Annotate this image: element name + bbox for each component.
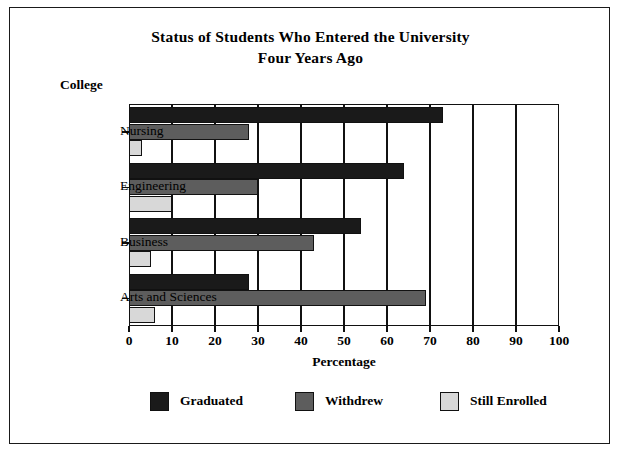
figure-frame: Status of Students Who Entered the Unive…: [9, 7, 610, 444]
y-axis-category-label: Business: [120, 234, 168, 250]
chart-page: Status of Students Who Entered the Unive…: [0, 0, 620, 453]
x-axis-tick: [472, 326, 474, 332]
gridline: [472, 104, 474, 326]
y-axis-category-label: Arts and Sciences: [120, 289, 217, 305]
chart-legend: GraduatedWithdrewStill Enrolled: [120, 390, 560, 416]
x-axis-tick-label: 30: [238, 333, 278, 349]
bar: [129, 107, 443, 123]
legend-item: Graduated: [150, 390, 243, 412]
chart-title: Status of Students Who Entered the Unive…: [10, 26, 611, 68]
x-axis-title: Percentage: [129, 354, 559, 370]
bar: [129, 251, 151, 267]
x-axis-tick: [128, 326, 130, 332]
y-axis-category-label: Engineering: [120, 178, 186, 194]
x-axis-tick: [386, 326, 388, 332]
plot-area: 0102030405060708090100 NursingEngineerin…: [120, 97, 560, 326]
x-axis-tick-label: 80: [453, 333, 493, 349]
x-axis-tick: [429, 326, 431, 332]
y-axis-title: College: [60, 77, 103, 93]
x-axis-tick: [515, 326, 517, 332]
x-axis-tick-label: 60: [367, 333, 407, 349]
bar: [129, 274, 249, 290]
chart-title-line-2: Four Years Ago: [10, 47, 611, 68]
x-axis-tick: [171, 326, 173, 332]
x-axis-tick-label: 10: [152, 333, 192, 349]
x-axis-tick-label: 100: [539, 333, 579, 349]
x-axis-tick: [214, 326, 216, 332]
x-axis-tick-label: 50: [324, 333, 364, 349]
bar: [129, 163, 404, 179]
gridline: [429, 104, 431, 326]
x-axis-tick: [343, 326, 345, 332]
bar: [129, 307, 155, 323]
x-axis-tick: [300, 326, 302, 332]
x-axis-tick-label: 40: [281, 333, 321, 349]
bar: [129, 196, 172, 212]
legend-swatch: [295, 392, 314, 411]
legend-swatch: [440, 392, 459, 411]
x-axis-tick-label: 20: [195, 333, 235, 349]
gridline: [515, 104, 517, 326]
x-axis-tick: [257, 326, 259, 332]
legend-label: Still Enrolled: [470, 393, 547, 409]
legend-label: Graduated: [180, 393, 243, 409]
x-axis-tick: [558, 326, 560, 332]
x-axis-tick-label: 90: [496, 333, 536, 349]
legend-item: Withdrew: [295, 390, 383, 412]
legend-label: Withdrew: [325, 393, 383, 409]
y-axis-category-label: Nursing: [120, 123, 164, 139]
bar: [129, 140, 142, 156]
legend-item: Still Enrolled: [440, 390, 547, 412]
chart-title-line-1: Status of Students Who Entered the Unive…: [151, 28, 469, 45]
x-axis-tick-label: 0: [109, 333, 149, 349]
bar: [129, 218, 361, 234]
legend-swatch: [150, 392, 169, 411]
x-axis-tick-label: 70: [410, 333, 450, 349]
